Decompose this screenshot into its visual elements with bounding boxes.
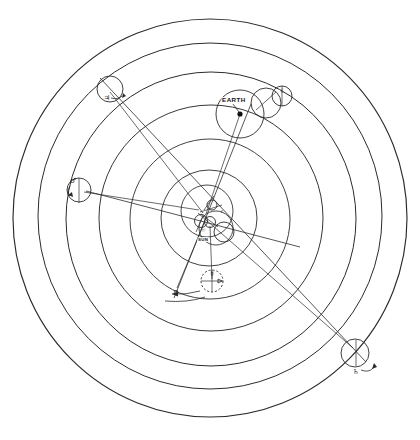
jupiter-orbit [38,43,382,389]
mars-orbit [66,72,356,366]
earth-label: EARTH [222,96,246,103]
sightline-mars-right [86,191,300,247]
mercury-group: ☿ [201,270,223,292]
orbit-canvas: ☉ SUN c ☿ ♀ EARTH [0,0,420,440]
saturn-arrow [361,368,373,371]
mars-group: ♂ [67,177,91,203]
moon-symbol: ☾ [280,87,285,94]
sightline-jupiter-saturn [100,78,366,362]
saturn-orbit [13,19,407,417]
saturn-group: ♄ [341,339,377,376]
sun-epicycle-b [205,217,216,228]
saturn-symbol: ♄ [353,368,359,376]
earth-body-dot [237,111,242,116]
radial-rays [84,92,353,348]
jupiter-symbol: ♃ [104,94,110,102]
moon-deferent [251,88,281,118]
ray-to-jupiter [110,92,203,213]
mercury-symbol: ☿ [210,270,214,277]
orbit-circles [13,19,407,417]
sun-symbol: ☉ [200,226,205,233]
jupiter-arrowhead [122,93,126,98]
ray-to-mars [84,192,199,210]
earth-group: EARTH ☾ [216,86,292,138]
sightline-earth-venus [174,104,251,298]
centre-mark-c: c [221,208,224,214]
venus-arc-outer [165,297,205,302]
sun-epicycle-c [214,222,234,242]
mars-symbol: ♂ [70,177,76,185]
saturn-arrowhead [372,363,377,369]
sun-label: SUN [198,237,208,242]
copernican-orbit-diagram: ☉ SUN c ☿ ♀ EARTH [0,0,420,440]
ray-to-earth [206,114,240,214]
sight-lines [86,78,366,362]
jupiter-group: ♃ [97,76,126,102]
